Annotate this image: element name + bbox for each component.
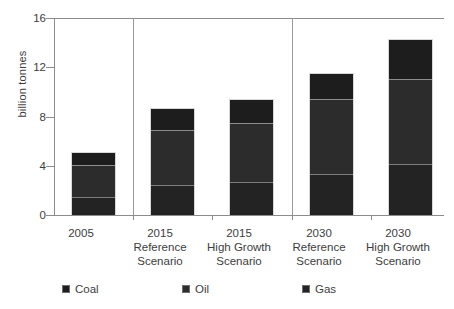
y-tick-label-16: 16 xyxy=(22,12,46,24)
bar-segment-gas xyxy=(151,186,194,215)
x-label-2030-high-growth: 2030 High Growth Scenario xyxy=(348,226,448,268)
x-tick-3 xyxy=(292,215,293,220)
bar-segment-oil xyxy=(389,79,432,165)
legend-label-coal: Coal xyxy=(75,283,99,295)
group-separator-2 xyxy=(292,18,293,215)
y-tick-label-0: 0 xyxy=(22,209,46,221)
bar-segment-oil xyxy=(310,99,353,175)
bar-2015-high-growth xyxy=(229,99,274,215)
y-tick-12 xyxy=(46,67,54,68)
bar-2030-high-growth xyxy=(388,39,433,215)
x-tick-2 xyxy=(212,215,213,220)
bar-segment-coal xyxy=(230,100,273,123)
bar-segment-oil xyxy=(151,130,194,186)
y-tick-0 xyxy=(46,215,54,216)
legend-item-oil: Oil xyxy=(182,283,302,295)
x-label-line: Scenario xyxy=(348,254,448,268)
x-label-line: High Growth xyxy=(348,240,448,254)
legend-label-oil: Oil xyxy=(195,283,209,295)
bar-2030-reference xyxy=(309,73,354,215)
y-axis-title: billion tonnes xyxy=(16,24,28,144)
bar-2005 xyxy=(71,152,116,215)
y-tick-16 xyxy=(46,18,54,19)
stacked-bar-chart: billion tonnes 16 12 8 4 0 xyxy=(0,0,454,309)
x-label-line: 2030 xyxy=(348,226,448,240)
y-tick-4 xyxy=(46,166,54,167)
legend-swatch-gas-icon xyxy=(302,285,310,293)
y-tick-label-8: 8 xyxy=(22,111,46,123)
group-separator-1 xyxy=(133,18,134,215)
bar-segment-gas xyxy=(230,183,273,215)
bar-segment-gas xyxy=(72,198,115,215)
y-tick-label-12: 12 xyxy=(22,61,46,73)
x-tick-4 xyxy=(371,215,372,220)
legend-label-gas: Gas xyxy=(315,283,336,295)
bar-segment-coal xyxy=(389,40,432,79)
y-axis-line xyxy=(54,18,55,215)
bar-segment-gas xyxy=(310,175,353,215)
bar-2015-reference xyxy=(150,108,195,215)
x-tick-1 xyxy=(133,215,134,220)
bar-segment-coal xyxy=(151,109,194,130)
bar-segment-gas xyxy=(389,165,432,215)
legend-swatch-oil-icon xyxy=(182,285,190,293)
chart-legend: Coal Oil Gas xyxy=(0,283,454,295)
y-tick-label-4: 4 xyxy=(22,160,46,172)
bar-segment-oil xyxy=(72,165,115,198)
plot-area: 16 12 8 4 0 xyxy=(54,18,444,215)
bar-segment-coal xyxy=(310,74,353,98)
bar-segment-oil xyxy=(230,123,273,183)
plot-top-border xyxy=(54,18,444,19)
legend-item-coal: Coal xyxy=(62,283,182,295)
legend-swatch-coal-icon xyxy=(62,285,70,293)
legend-item-gas: Gas xyxy=(302,283,392,295)
bar-segment-coal xyxy=(72,153,115,165)
x-axis-line xyxy=(54,215,444,216)
y-tick-8 xyxy=(46,117,54,118)
